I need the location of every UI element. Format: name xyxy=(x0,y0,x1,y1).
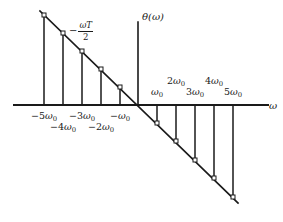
slope-numerator: ωT xyxy=(78,21,93,31)
tick-label: −4ω0 xyxy=(50,122,76,134)
sample-marker xyxy=(193,158,197,162)
slope-denominator: 2 xyxy=(83,32,88,42)
tick-label: 2ω0 xyxy=(167,76,185,88)
omega-axis-label: ω xyxy=(269,101,277,111)
slope-fraction: ωT 2 xyxy=(78,21,93,41)
sample-marker xyxy=(61,31,65,35)
tick-label: 5ω0 xyxy=(224,87,242,99)
sample-marker xyxy=(212,176,216,180)
tick-label: −2ω0 xyxy=(88,122,114,134)
tick-label: ω0 xyxy=(151,87,163,99)
sample-marker xyxy=(80,49,84,53)
sample-marker xyxy=(118,85,122,89)
tick-label: 3ω0 xyxy=(186,87,204,99)
tick-label: 4ω0 xyxy=(205,76,223,88)
slope-minus-sign: − xyxy=(69,26,77,37)
sample-marker xyxy=(42,13,46,17)
tick-label: −ω0 xyxy=(110,111,130,123)
sample-marker xyxy=(99,67,103,71)
sample-marker xyxy=(231,195,235,199)
theta-axis-label: θ(ω) xyxy=(142,12,164,22)
slope-annotation: − ωT 2 xyxy=(69,21,93,41)
sample-marker xyxy=(155,121,159,125)
phase-spectrum-figure: θ(ω) ω − ωT 2 −5ω0−4ω0−3ω0−2ω0−ω0ω02ω03ω… xyxy=(0,0,283,222)
sample-marker xyxy=(174,139,178,143)
